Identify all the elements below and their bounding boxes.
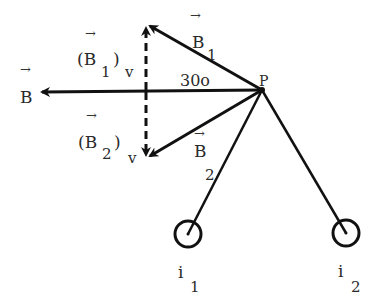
point-p-label: P [259,73,268,89]
current-i2-dot-icon [345,232,348,235]
i1-label: i [178,262,184,282]
i2-subscript: 2 [351,278,361,296]
b1-vector-arrow-glyph: → [190,8,201,23]
b2v-close: ) [114,132,121,152]
b2-vector-arrow-glyph: → [194,126,205,141]
b1-label: B [192,32,205,52]
line-p-to-i2 [262,90,346,233]
b1v-subscript: 1 [101,63,111,81]
i1-subscript: 1 [190,278,200,296]
b-label: B [20,87,33,107]
b2-label: B [194,141,207,161]
angle-label: 30o [180,71,210,90]
b2v-open: (B [78,132,97,152]
b2v-arrow-glyph: → [86,108,97,123]
magnetic-field-diagram: P 30o → B 1 → B → B 2 → (B 1 ) v → (B 2 … [0,0,378,306]
b-vector-arrow-glyph: → [20,62,31,77]
b1v-arrow-glyph: → [85,26,96,41]
b2v-suffix: v [127,149,137,167]
b1-subscript: 1 [207,46,217,64]
b2v-subscript: 2 [102,145,112,163]
b1v-open: (B [77,49,96,69]
vector-b-arrow [42,90,262,92]
b1v-close: ) [113,49,120,69]
b1v-suffix: v [124,63,134,81]
i2-label: i [338,261,344,281]
current-i1-dot-icon [187,233,190,236]
b2-subscript: 2 [205,166,215,184]
